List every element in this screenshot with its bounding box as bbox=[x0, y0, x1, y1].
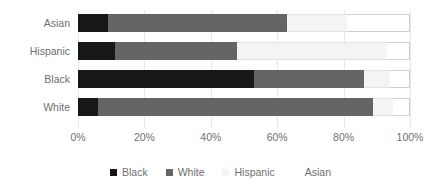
legend-swatch-hispanic-icon bbox=[222, 169, 229, 176]
bar-white[interactable] bbox=[78, 98, 410, 116]
stacked-bar-chart: Asian Hispanic Black White 0%20%40%60%80… bbox=[0, 0, 441, 193]
bar-black[interactable] bbox=[78, 70, 410, 88]
bar-hispanic[interactable] bbox=[78, 42, 410, 60]
gridline-100 bbox=[410, 10, 411, 128]
legend-label-white: White bbox=[178, 166, 205, 178]
segment-black-hispanic[interactable] bbox=[364, 70, 391, 88]
x-axis-tick-80: 80% bbox=[333, 131, 354, 143]
segment-white-white[interactable] bbox=[98, 98, 374, 116]
x-axis-tick-20: 20% bbox=[134, 131, 155, 143]
segment-asian-hispanic[interactable] bbox=[287, 14, 347, 32]
x-axis-tick-100: 100% bbox=[397, 131, 424, 143]
legend-swatch-white-icon bbox=[166, 169, 173, 176]
x-axis-tick-60: 60% bbox=[267, 131, 288, 143]
legend-item-asian[interactable]: Asian bbox=[293, 166, 331, 178]
segment-hispanic-white[interactable] bbox=[115, 42, 238, 60]
x-axis-tick-40: 40% bbox=[200, 131, 221, 143]
segment-asian-asian[interactable] bbox=[347, 14, 410, 32]
segment-asian-white[interactable] bbox=[108, 14, 287, 32]
y-axis-label-black: Black bbox=[6, 70, 70, 88]
y-axis-label-hispanic: Hispanic bbox=[6, 42, 70, 60]
legend-label-asian: Asian bbox=[305, 166, 331, 178]
segment-hispanic-hispanic[interactable] bbox=[237, 42, 386, 60]
chart-legend: BlackWhiteHispanicAsian bbox=[0, 166, 441, 178]
plot-area bbox=[78, 10, 410, 128]
segment-black-black[interactable] bbox=[78, 70, 254, 88]
legend-item-hispanic[interactable]: Hispanic bbox=[222, 166, 274, 178]
segment-hispanic-black[interactable] bbox=[78, 42, 115, 60]
legend-swatch-asian-icon bbox=[293, 169, 300, 176]
segment-black-asian[interactable] bbox=[390, 70, 410, 88]
y-axis-label-white: White bbox=[6, 98, 70, 116]
y-axis-label-asian: Asian bbox=[6, 14, 70, 32]
y-axis: Asian Hispanic Black White bbox=[4, 10, 70, 128]
segment-black-white[interactable] bbox=[254, 70, 364, 88]
legend-item-white[interactable]: White bbox=[166, 166, 205, 178]
x-axis-tick-0: 0% bbox=[70, 131, 85, 143]
segment-white-hispanic[interactable] bbox=[373, 98, 393, 116]
legend-label-hispanic: Hispanic bbox=[234, 166, 274, 178]
segment-white-black[interactable] bbox=[78, 98, 98, 116]
bar-asian[interactable] bbox=[78, 14, 410, 32]
x-axis: 0%20%40%60%80%100% bbox=[78, 131, 410, 149]
legend-item-black[interactable]: Black bbox=[110, 166, 148, 178]
legend-swatch-black-icon bbox=[110, 169, 117, 176]
legend-label-black: Black bbox=[122, 166, 148, 178]
segment-hispanic-asian[interactable] bbox=[387, 42, 410, 60]
segment-white-asian[interactable] bbox=[393, 98, 410, 116]
segment-asian-black[interactable] bbox=[78, 14, 108, 32]
